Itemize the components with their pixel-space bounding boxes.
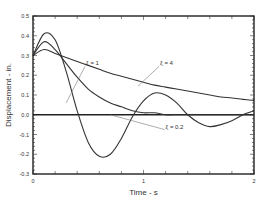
y-tick-label: 0.1 bbox=[21, 92, 29, 98]
y-tick-label: 0.0 bbox=[21, 112, 29, 118]
annotation-leader bbox=[66, 66, 85, 103]
y-tick-label: 0.2 bbox=[21, 72, 29, 78]
x-tick-label: 2 bbox=[252, 178, 255, 184]
x-tick-label: 0 bbox=[31, 178, 34, 184]
y-axis-label: Displacement - in. bbox=[4, 63, 13, 127]
y-tick-label: 0.3 bbox=[21, 53, 29, 59]
series-curves bbox=[33, 33, 254, 158]
plot-frame bbox=[33, 16, 254, 174]
x-tick-labels: 012 bbox=[31, 178, 255, 184]
series-line-1 bbox=[33, 42, 254, 115]
annotation-label: ξ = 0.2 bbox=[166, 124, 185, 130]
displacement-chart: 0.50.40.30.20.10.0-0.1-0.2-0.3 012 ξ = 4… bbox=[0, 0, 261, 204]
y-tick-label: -0.2 bbox=[20, 151, 29, 157]
x-axis-label: Time - s bbox=[129, 188, 158, 197]
y-tick-label: -0.3 bbox=[20, 171, 29, 177]
axis-ticks bbox=[33, 16, 254, 174]
x-tick-label: 1 bbox=[142, 178, 145, 184]
y-tick-label: -0.1 bbox=[20, 132, 29, 138]
y-tick-labels: 0.50.40.30.20.10.0-0.1-0.2-0.3 bbox=[20, 13, 29, 177]
annotation-label: ξ = 4 bbox=[160, 60, 174, 66]
y-tick-label: 0.4 bbox=[21, 33, 29, 39]
series-line-2 bbox=[33, 50, 254, 101]
annotation-leader bbox=[110, 115, 164, 130]
series-line-0 bbox=[33, 33, 254, 158]
y-tick-label: 0.5 bbox=[21, 13, 29, 19]
annotation-label: ξ = 1 bbox=[86, 60, 100, 66]
